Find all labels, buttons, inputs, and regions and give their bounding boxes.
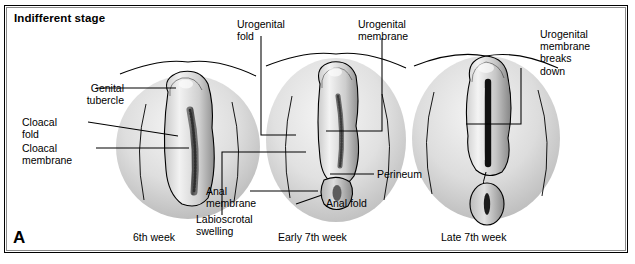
- label-anal-membrane-line2: membrane: [206, 197, 280, 209]
- label-genital-tubercle: Genital tubercle: [52, 82, 124, 106]
- caption-late-7th-week: Late 7th week: [441, 231, 506, 243]
- label-urogenital-fold: Urogenital fold: [237, 18, 313, 42]
- embryology-figure: Indifferent stage A: [0, 0, 635, 264]
- label-cloacal-membrane: Cloacal membrane: [22, 142, 102, 166]
- label-anal-membrane-line1: Anal: [206, 185, 280, 197]
- label-perineum-line1: Perineum: [377, 168, 447, 180]
- caption-early-7th-week: Early 7th week: [278, 231, 347, 243]
- stage-title: Indifferent stage: [11, 11, 108, 25]
- label-ugm-breaks-line2: membrane: [540, 40, 622, 52]
- label-ugm-breaks-line3: breaks: [540, 52, 622, 64]
- label-urogenital-fold-line2: fold: [237, 30, 313, 42]
- label-ugm-breaks-line4: down: [540, 65, 622, 77]
- caption-6th-week: 6th week: [133, 231, 175, 243]
- label-cloacal-membrane-line1: Cloacal: [22, 142, 102, 154]
- label-perineum: Perineum: [377, 168, 447, 180]
- label-labioscrotal-swelling: Labioscrotal swelling: [196, 213, 278, 237]
- label-urogenital-fold-line1: Urogenital: [237, 18, 313, 30]
- label-cloacal-fold-line2: fold: [22, 128, 92, 140]
- label-cloacal-membrane-line2: membrane: [22, 154, 102, 166]
- label-urogenital-membrane-line1: Urogenital: [358, 18, 444, 30]
- label-cloacal-fold: Cloacal fold: [22, 116, 92, 140]
- label-anal-fold: Anal fold: [326, 197, 394, 209]
- label-urogenital-membrane-breaks-down: Urogenital membrane breaks down: [540, 28, 622, 77]
- label-ugm-breaks-line1: Urogenital: [540, 28, 622, 40]
- label-urogenital-membrane-line2: membrane: [358, 30, 444, 42]
- label-anal-membrane: Anal membrane: [206, 185, 280, 209]
- label-urogenital-membrane: Urogenital membrane: [358, 18, 444, 42]
- label-genital-tubercle-line1: Genital: [52, 82, 124, 94]
- label-labioscrotal-swelling-line1: Labioscrotal: [196, 213, 278, 225]
- label-cloacal-fold-line1: Cloacal: [22, 116, 92, 128]
- label-labioscrotal-swelling-line2: swelling: [196, 225, 278, 237]
- panel-letter: A: [13, 228, 25, 248]
- label-anal-fold-line1: Anal fold: [326, 197, 394, 209]
- label-genital-tubercle-line2: tubercle: [52, 94, 124, 106]
